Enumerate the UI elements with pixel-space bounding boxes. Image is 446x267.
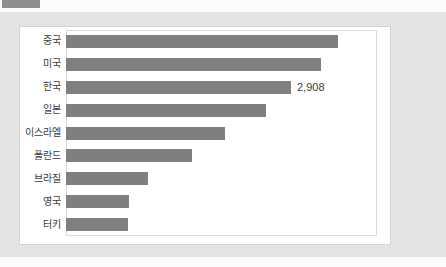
figure-panel: 중국미국한국2,908일본이스라엘폴란드브라질영국터키 (0, 12, 446, 257)
chart-row: 한국2,908 (20, 76, 377, 99)
chart-row: 영국 (20, 190, 377, 213)
bar (66, 149, 192, 162)
chart-row: 폴란드 (20, 144, 377, 167)
category-label: 일본 (20, 105, 66, 115)
chart-row: 터키 (20, 213, 377, 236)
chart-row: 일본 (20, 99, 377, 122)
category-label: 터키 (20, 220, 66, 230)
data-label: 2,908 (297, 82, 325, 93)
bar-chart: 중국미국한국2,908일본이스라엘폴란드브라질영국터키 (20, 30, 377, 236)
bar-track (66, 53, 377, 76)
category-label: 영국 (20, 197, 66, 207)
bar (66, 195, 129, 208)
bar-track (66, 30, 377, 53)
bar (66, 35, 338, 48)
chart-row: 중국 (20, 30, 377, 53)
category-label: 이스라엘 (20, 128, 66, 138)
bar (66, 104, 266, 117)
bar (66, 172, 148, 185)
bar-track (66, 167, 377, 190)
category-label: 브라질 (20, 174, 66, 184)
bar (66, 127, 225, 140)
bar-track (66, 122, 377, 145)
corner-tab (2, 0, 40, 8)
chart-row: 브라질 (20, 167, 377, 190)
bar-track (66, 213, 377, 236)
chart-row: 미국 (20, 53, 377, 76)
category-label: 한국 (20, 82, 66, 92)
bar (66, 81, 291, 94)
bar-track: 2,908 (66, 76, 377, 99)
bar (66, 218, 128, 231)
category-label: 미국 (20, 59, 66, 69)
bar (66, 58, 321, 71)
screenshot-root: 중국미국한국2,908일본이스라엘폴란드브라질영국터키 (0, 0, 446, 267)
bar-track (66, 190, 377, 213)
bar-track (66, 99, 377, 122)
category-label: 폴란드 (20, 151, 66, 161)
category-label: 중국 (20, 36, 66, 46)
chart-row: 이스라엘 (20, 122, 377, 145)
chart-card: 중국미국한국2,908일본이스라엘폴란드브라질영국터키 (19, 26, 391, 245)
bar-track (66, 144, 377, 167)
